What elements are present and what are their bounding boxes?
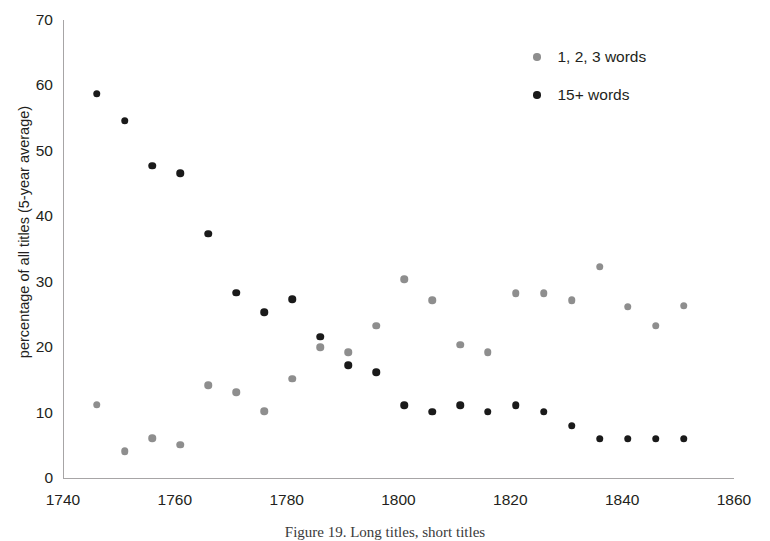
x-tick-label: 1860: [694, 491, 770, 509]
data-point: [456, 341, 464, 349]
legend-marker-icon: [533, 91, 541, 99]
data-point: [372, 368, 380, 376]
data-point: [400, 402, 408, 410]
data-point: [261, 309, 269, 317]
legend-entry-label: 1, 2, 3 words: [558, 48, 647, 66]
data-point: [316, 343, 324, 351]
data-point: [372, 322, 380, 330]
data-point: [289, 296, 297, 304]
data-point: [484, 349, 492, 357]
data-point: [680, 302, 688, 310]
data-point: [316, 333, 324, 341]
y-axis-line: [63, 20, 64, 478]
data-point: [652, 322, 660, 330]
data-point: [149, 162, 157, 170]
y-axis-title: percentage of all titles (5-year average…: [16, 42, 32, 422]
data-point: [261, 408, 269, 416]
data-point: [93, 401, 101, 409]
data-point: [624, 303, 632, 311]
figure-caption: Figure 19. Long titles, short titles: [0, 524, 770, 541]
legend-entry-label: 15+ words: [558, 86, 630, 104]
data-point: [596, 435, 604, 443]
data-point: [568, 296, 576, 304]
data-point: [344, 362, 352, 370]
legend-entry[interactable]: 1, 2, 3 words: [533, 38, 646, 76]
data-point: [205, 230, 213, 238]
data-point: [121, 447, 129, 455]
data-point: [428, 408, 436, 416]
data-point: [177, 169, 185, 177]
data-point: [652, 435, 660, 443]
data-point: [624, 435, 632, 443]
x-tick-label: 1760: [135, 491, 215, 509]
data-point: [540, 290, 548, 298]
data-point: [121, 117, 129, 125]
data-point: [680, 435, 688, 443]
y-tick-label: 70: [8, 11, 53, 29]
data-point: [344, 349, 352, 357]
data-point: [177, 441, 185, 449]
data-point: [400, 275, 408, 283]
x-tick-label: 1800: [359, 491, 439, 509]
x-tick-label: 1840: [582, 491, 662, 509]
data-point: [456, 402, 464, 410]
data-point: [233, 289, 241, 297]
x-tick-label: 1820: [470, 491, 550, 509]
data-point: [289, 375, 297, 383]
x-tick-label: 1740: [23, 491, 103, 509]
legend-entry[interactable]: 15+ words: [533, 76, 646, 114]
data-point: [512, 402, 520, 410]
x-tick-label: 1780: [247, 491, 327, 509]
data-point: [428, 296, 436, 304]
data-point: [568, 422, 576, 430]
data-point: [540, 408, 548, 416]
data-point: [512, 290, 520, 298]
data-point: [596, 263, 604, 271]
x-axis-line: [63, 478, 734, 479]
data-point: [233, 389, 241, 397]
legend-marker-icon: [533, 53, 541, 61]
chart-legend: 1, 2, 3 words15+ words: [533, 38, 646, 114]
data-point: [93, 90, 101, 98]
y-tick-label: 0: [8, 469, 53, 487]
data-point: [149, 434, 157, 442]
data-point: [484, 408, 492, 416]
data-point: [205, 381, 213, 389]
